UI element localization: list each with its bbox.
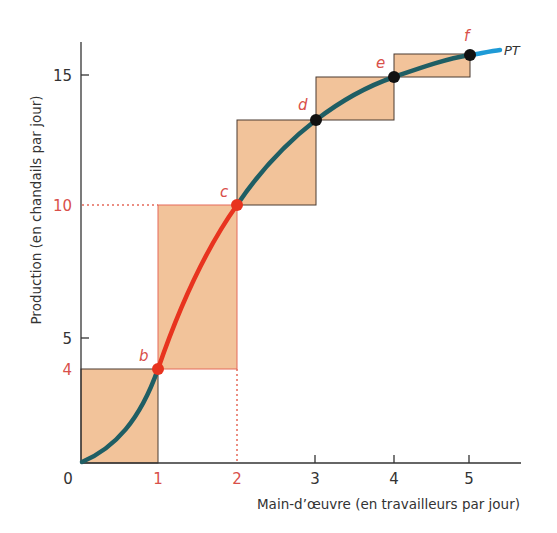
label-b: b bbox=[139, 347, 149, 365]
label-c: c bbox=[220, 183, 229, 201]
label-e: e bbox=[376, 54, 385, 72]
y-label-15: 15 bbox=[53, 67, 72, 85]
x-label-2: 2 bbox=[232, 470, 242, 488]
curve-label-pt: PT bbox=[504, 43, 521, 58]
point-f bbox=[464, 49, 476, 61]
x-label-3: 3 bbox=[310, 470, 320, 488]
bar-0-1 bbox=[81, 369, 158, 463]
label-f: f bbox=[464, 27, 472, 45]
x-label-1: 1 bbox=[153, 470, 163, 488]
bar-2-3 bbox=[237, 120, 316, 205]
y-axis-title: Production (en chandails par jour) bbox=[28, 95, 44, 324]
point-c bbox=[231, 199, 243, 211]
x-label-5: 5 bbox=[464, 470, 474, 488]
x-label-4: 4 bbox=[389, 470, 399, 488]
point-d bbox=[310, 114, 322, 126]
production-chart: b c d e f PT 15 10 5 4 0 1 2 3 4 5 Main-… bbox=[0, 0, 557, 533]
y-label-4: 4 bbox=[62, 361, 72, 379]
label-d: d bbox=[298, 96, 308, 114]
y-label-10: 10 bbox=[53, 197, 72, 215]
bar-1-2 bbox=[158, 205, 237, 369]
x-label-0: 0 bbox=[63, 470, 73, 488]
x-axis-title: Main-d’œuvre (en travailleurs par jour) bbox=[257, 496, 520, 512]
y-label-5: 5 bbox=[62, 330, 72, 348]
point-e bbox=[388, 71, 400, 83]
point-b bbox=[152, 363, 164, 375]
